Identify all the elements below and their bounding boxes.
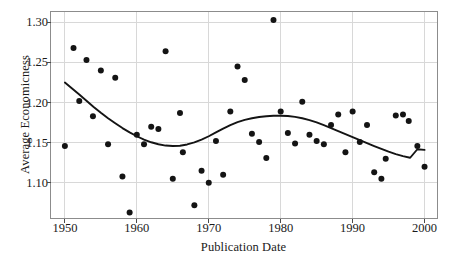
x-tick-label: 1970 (179, 221, 239, 236)
scatter-points (62, 17, 428, 216)
x-tick-label: 1960 (107, 221, 167, 236)
trend-line (65, 83, 425, 158)
x-tick-label: 1950 (35, 221, 95, 236)
x-tick-label: 1990 (323, 221, 383, 236)
chart-figure: Average Economicness 1.101.151.201.251.3… (0, 0, 454, 265)
x-tick-label: 2000 (395, 221, 454, 236)
x-axis-label: Publication Date (50, 240, 437, 255)
plot-frame (51, 12, 438, 219)
x-axis-tick-labels: 195019601970198019902000 (0, 221, 454, 239)
grid-lines (51, 12, 438, 219)
x-tick-label: 1980 (251, 221, 311, 236)
